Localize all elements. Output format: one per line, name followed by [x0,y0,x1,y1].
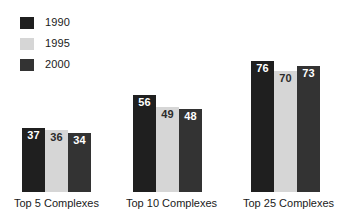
bar-2000-1: 48 [179,109,202,192]
bar-value-label: 56 [133,97,156,108]
bar-value-label: 34 [68,135,91,146]
category-label-1: Top 10 Complexes [126,196,217,210]
bar-1995-2: 70 [274,71,297,192]
bar-1990-2: 76 [251,61,274,192]
bar-value-label: 36 [45,132,68,143]
bar-1990-1: 56 [133,95,156,192]
bar-2000-2: 73 [297,66,320,192]
bar-value-label: 48 [179,111,202,122]
bar-value-label: 70 [274,73,297,84]
bar-1995-1: 49 [156,107,179,192]
bar-value-label: 49 [156,109,179,120]
category-axis: Top 5 ComplexesTop 10 ComplexesTop 25 Co… [0,196,342,216]
bar-2000-0: 34 [68,133,91,192]
bar-group: 767073 [251,61,320,192]
plot-area: 373634564948767073 [0,0,342,192]
category-label-0: Top 5 Complexes [14,196,99,210]
bar-group: 564948 [133,95,202,192]
bar-value-label: 76 [251,63,274,74]
bar-value-label: 37 [22,130,45,141]
grouped-bar-chart: 1990 1995 2000 373634564948767073 Top 5 … [0,0,342,220]
bar-1995-0: 36 [45,130,68,192]
bar-group: 373634 [22,128,91,192]
bar-value-label: 73 [297,68,320,79]
category-label-2: Top 25 Complexes [243,196,334,210]
bar-1990-0: 37 [22,128,45,192]
